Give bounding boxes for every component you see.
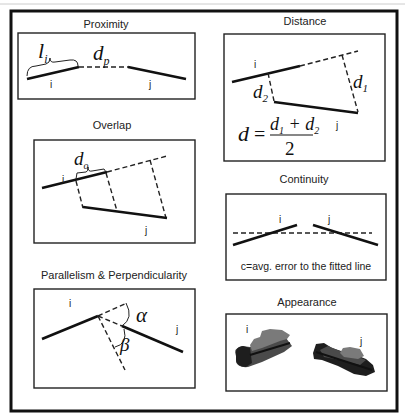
segment-label-j: j [327, 214, 330, 225]
segment-label-j: j [175, 324, 178, 335]
panel-title: Appearance [277, 296, 336, 308]
length-label: li [38, 38, 47, 66]
segment-label-j: j [144, 225, 147, 236]
segment-label-i: i [50, 79, 52, 90]
panel-box [34, 289, 195, 388]
segment-i [42, 172, 107, 188]
segment-label-j: j [148, 79, 151, 90]
formula-lhs: d [238, 121, 250, 146]
gap-label: dp [93, 41, 110, 68]
panel-title: Proximity [83, 18, 129, 30]
panel-title: Parallelism & Perpendicularity [41, 269, 188, 281]
alpha-arc [122, 303, 129, 326]
segment-i [27, 67, 79, 79]
segment-label-j: j [335, 120, 338, 131]
perpendicular-d2 [268, 73, 274, 101]
extension-dashed-line [300, 51, 358, 66]
segment-j [128, 67, 186, 79]
overlap-label: do [74, 148, 89, 171]
panel-title: Continuity [280, 173, 329, 185]
extension-dashed-line [107, 156, 167, 172]
panel-title: Overlap [93, 119, 132, 131]
segment-i [233, 225, 297, 245]
segment-j [274, 102, 358, 113]
panel-proximity: Proximity li dp i j [18, 18, 195, 99]
segment-label-i: i [279, 214, 281, 225]
grouping-criteria-diagram: Proximity li dp i j Distance i j d2 d1 d… [0, 0, 405, 419]
panel-title: Distance [284, 15, 327, 27]
blob-i [235, 329, 292, 367]
segment-j [313, 225, 378, 245]
d1-label: d1 [353, 71, 368, 94]
formula-equals: = [254, 123, 265, 145]
d2-label: d2 [253, 81, 269, 104]
distance-formula: d = d1 + d2 2 [238, 114, 319, 159]
formula-denominator: 2 [285, 138, 295, 159]
alpha-label: α [136, 303, 148, 327]
formula-numerator: d1 + d2 [270, 114, 319, 136]
segment-label-i: i [69, 298, 71, 309]
segment-i [42, 316, 98, 339]
segment-label-j: j [359, 336, 362, 347]
extension-i-dashed [98, 303, 127, 316]
panel-continuity: Continuity i j c=avg. error to the fitte… [226, 173, 386, 280]
blob-j [313, 343, 375, 376]
panel-distance: Distance i j d2 d1 d = d1 + d2 2 [224, 15, 385, 161]
segment-label-i: i [254, 59, 256, 70]
panel-box [34, 140, 195, 243]
projection-mid [106, 173, 117, 211]
panel-parallelism: Parallelism & Perpendicularity α β i j [34, 269, 195, 388]
projection-left [76, 181, 83, 208]
panel-appearance: Appearance i j [226, 296, 387, 391]
segment-i [232, 66, 300, 82]
segment-label-i: i [246, 324, 248, 335]
segment-j [83, 207, 167, 218]
segment-j [122, 326, 183, 352]
beta-label: β [119, 334, 130, 355]
segment-label-i: i [62, 174, 64, 185]
panel-overlap: Overlap do i j [34, 119, 195, 243]
continuity-caption: c=avg. error to the fitted line [241, 260, 372, 272]
projection-right [150, 160, 166, 218]
